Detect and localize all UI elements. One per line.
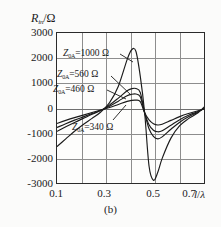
x-tick-label: 0.5 (136, 188, 170, 199)
series-annotation-560: Z0A=560 Ω (57, 69, 98, 82)
series-value: =1000 Ω (75, 48, 109, 58)
series-value: =560 Ω (69, 69, 98, 79)
x-tick-label: 0.3 (87, 188, 121, 199)
series-annotation-1000: Z0A=1000 Ω (63, 48, 109, 61)
y-tick-label: -1000 (7, 128, 53, 139)
series-value: =460 Ω (65, 84, 94, 94)
y-axis-label: Rin/Ω (31, 11, 55, 26)
y-tick-label: -2000 (7, 153, 53, 164)
x-tick-label: 0.1 (39, 188, 73, 199)
figure-caption: (b) (0, 203, 221, 215)
figure-panel: Rin/Ω 3000 2000 1000 0 -1000 -2000 -3000… (0, 0, 221, 227)
y-tick-label: 3000 (7, 27, 53, 38)
series-annotation-340: Z0A=340 Ω (72, 122, 113, 135)
y-axis-label-unit: /Ω (43, 11, 55, 25)
y-tick-label: 1000 (7, 77, 53, 88)
series-value: =340 Ω (84, 122, 113, 132)
y-tick-label: 2000 (7, 52, 53, 63)
series-annotation-460: Z0A=460 Ω (53, 84, 94, 97)
y-tick-label: 0 (7, 103, 53, 114)
x-axis-label: l/λ (194, 188, 205, 200)
x-axis-label-lambda: λ (200, 188, 205, 200)
